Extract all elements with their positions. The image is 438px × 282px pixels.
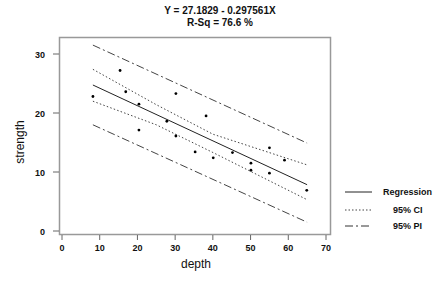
y-axis-label: strength [13, 120, 27, 163]
regression-lines [93, 45, 307, 222]
data-point [250, 169, 253, 172]
data-point [165, 120, 168, 123]
y-axis: 0102030 [35, 50, 59, 237]
data-point [119, 69, 122, 72]
data-point [305, 189, 308, 192]
legend-regression-label: Regression [383, 187, 432, 197]
x-tick-label: 50 [246, 243, 256, 253]
data-point [124, 90, 127, 93]
data-point [138, 103, 141, 106]
x-axis-label: depth [181, 257, 211, 271]
data-point [194, 151, 197, 154]
x-tick-label: 0 [59, 243, 64, 253]
chart-title: Y = 27.1829 - 0.297561X [164, 5, 276, 16]
data-point [212, 156, 215, 159]
data-point [174, 135, 177, 138]
x-tick-label: 30 [170, 243, 180, 253]
data-point [250, 162, 253, 165]
y-tick-label: 0 [40, 227, 45, 237]
legend-pi-label: 95% PI [393, 221, 422, 231]
data-point [268, 172, 271, 175]
y-tick-label: 30 [35, 50, 45, 60]
data-point [231, 151, 234, 154]
data-point [174, 92, 177, 95]
data-point [138, 129, 141, 132]
x-axis: 010203040506070 [59, 235, 331, 253]
x-tick-label: 10 [95, 243, 105, 253]
x-tick-label: 60 [283, 243, 293, 253]
data-point [92, 95, 95, 98]
x-tick-label: 40 [208, 243, 218, 253]
x-tick-label: 70 [321, 243, 331, 253]
legend: Regression 95% CI 95% PI [345, 187, 432, 231]
legend-ci-label: 95% CI [393, 205, 423, 215]
regression-line [93, 85, 307, 185]
data-point [283, 159, 286, 162]
x-tick-label: 20 [132, 243, 142, 253]
data-point [205, 115, 208, 118]
95-pi-lower-line [93, 125, 307, 222]
95-pi-upper-line [93, 45, 307, 143]
plot-frame [60, 38, 331, 235]
chart-subtitle: R-Sq = 76.6 % [187, 17, 253, 28]
95-ci-upper-line [93, 69, 307, 165]
plot-canvas: Y = 27.1829 - 0.297561X R-Sq = 76.6 % 01… [0, 0, 438, 282]
95-ci-lower-line [93, 101, 307, 200]
y-tick-label: 10 [35, 168, 45, 178]
y-tick-label: 20 [35, 109, 45, 119]
regression-plot: Y = 27.1829 - 0.297561X R-Sq = 76.6 % 01… [0, 0, 438, 282]
data-point [268, 146, 271, 149]
